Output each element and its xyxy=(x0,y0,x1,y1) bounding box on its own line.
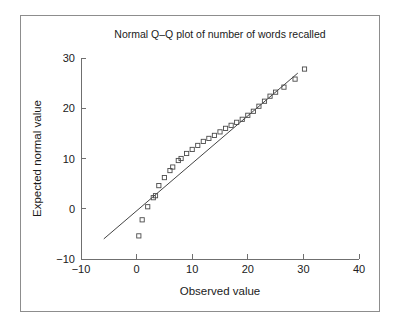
x-tick-label: 40 xyxy=(353,263,365,275)
data-point xyxy=(190,147,194,151)
data-point xyxy=(162,176,166,180)
data-point xyxy=(146,205,150,209)
data-point xyxy=(196,143,200,147)
data-point xyxy=(293,77,297,81)
data-point xyxy=(302,67,306,71)
data-point xyxy=(223,126,227,130)
y-tick-label: 10 xyxy=(63,153,75,165)
x-tick-label: 20 xyxy=(242,263,254,275)
y-tick-label: 0 xyxy=(69,203,75,215)
x-tick-label: 0 xyxy=(134,263,140,275)
x-tick-label: 30 xyxy=(297,263,309,275)
y-tick-label: 20 xyxy=(63,102,75,114)
data-point xyxy=(201,139,205,143)
y-axis-title: Expected normal value xyxy=(31,100,43,217)
figure-panel: Normal Q–Q plot of number of words recal… xyxy=(20,15,380,312)
x-axis-title: Observed value xyxy=(180,285,261,297)
data-point xyxy=(137,234,141,238)
data-point xyxy=(212,133,216,137)
x-tick-label: 10 xyxy=(186,263,198,275)
data-point-group xyxy=(137,67,307,238)
y-tick-label: −10 xyxy=(56,253,75,265)
data-point xyxy=(140,218,144,222)
data-point xyxy=(185,151,189,155)
y-tick-label: 30 xyxy=(63,52,75,64)
data-point xyxy=(207,136,211,140)
chart-title: Normal Q–Q plot of number of words recal… xyxy=(114,28,325,40)
data-point xyxy=(229,123,233,127)
qq-plot-chart: Normal Q–Q plot of number of words recal… xyxy=(21,16,379,311)
data-point xyxy=(218,130,222,134)
data-point xyxy=(157,184,161,188)
axis-lines xyxy=(81,58,359,259)
